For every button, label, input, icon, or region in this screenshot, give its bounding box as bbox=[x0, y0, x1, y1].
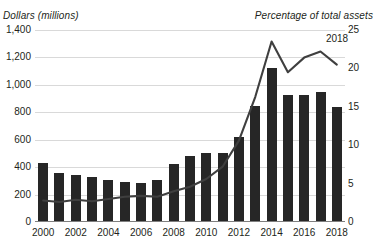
y2-axis-tick-label: 15 bbox=[348, 102, 374, 112]
x-axis-tick-label: 2018 bbox=[317, 228, 357, 238]
right-axis-title: Percentage of total assets bbox=[255, 10, 373, 21]
plot-area bbox=[35, 30, 345, 222]
y2-axis-tick-label: 0 bbox=[348, 217, 374, 227]
y-axis-tick-label: 1,400 bbox=[0, 25, 31, 35]
y-axis-tick-label: 200 bbox=[0, 190, 31, 200]
y2-axis-tick-label: 10 bbox=[348, 140, 374, 150]
y2-axis-tick-label: 5 bbox=[348, 179, 374, 189]
y-axis-tick-label: 400 bbox=[0, 162, 31, 172]
y-axis-tick-label: 1,200 bbox=[0, 52, 31, 62]
chart-container: Dollars (millions) Percentage of total a… bbox=[0, 0, 375, 249]
y-axis-tick-label: 600 bbox=[0, 135, 31, 145]
y2-axis-tick-label: 25 bbox=[348, 25, 374, 35]
y-axis-tick-label: 0 bbox=[0, 217, 31, 227]
line-series bbox=[35, 30, 345, 222]
y-axis-tick-label: 1,000 bbox=[0, 80, 31, 90]
x-axis-baseline bbox=[35, 221, 345, 222]
left-axis-title: Dollars (millions) bbox=[3, 10, 79, 21]
y-axis-tick-label: 800 bbox=[0, 107, 31, 117]
annotation-2018-label: 2018 bbox=[326, 33, 348, 44]
y2-axis-tick-label: 20 bbox=[348, 63, 374, 73]
percentage-line bbox=[43, 42, 337, 203]
